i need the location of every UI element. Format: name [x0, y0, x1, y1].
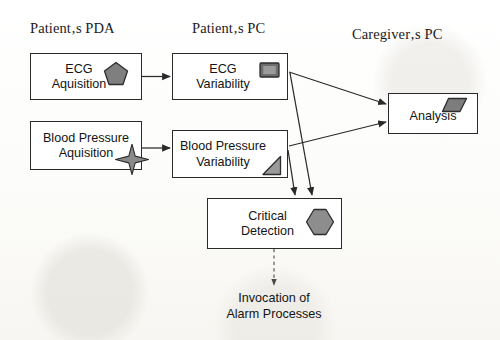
node-ecg-variability-label: ECG Variability — [173, 61, 287, 92]
node-critical-detection[interactable]: Critical Detection — [207, 198, 342, 249]
node-ecg-acquisition-label: ECG Aquisition — [31, 61, 141, 92]
node-ecg-acquisition[interactable]: ECG Aquisition — [30, 53, 142, 100]
node-analysis-label: Analysis — [389, 109, 477, 125]
edge-ecg-var-to-analysis — [289, 72, 386, 104]
invocation-note: Invocation of Alarm Processes — [194, 290, 354, 322]
edge-bp-var-to-critical — [288, 150, 295, 195]
node-blood-pressure-acquisition[interactable]: Blood Pressure Aquisition — [30, 121, 142, 170]
edge-bp-var-to-analysis — [289, 122, 386, 146]
node-analysis[interactable]: Analysis — [388, 93, 478, 134]
edge-ecg-var-to-critical — [290, 73, 312, 195]
node-ecg-variability[interactable]: ECG Variability — [172, 53, 288, 100]
node-blood-pressure-variability-label: Blood Pressure Variability — [173, 139, 287, 170]
node-blood-pressure-acquisition-label: Blood Pressure Aquisition — [31, 130, 141, 161]
node-blood-pressure-variability[interactable]: Blood Pressure Variability — [172, 130, 288, 178]
diagram-canvas: Patient‚s PDA Patient‚s PC Caregiver‚s P… — [0, 0, 500, 340]
node-critical-detection-label: Critical Detection — [208, 208, 341, 239]
